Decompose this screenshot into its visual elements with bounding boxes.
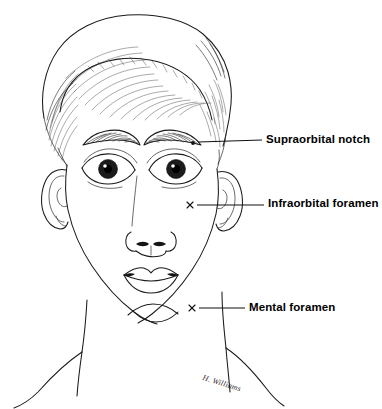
sternocleidomastoid-left bbox=[77, 352, 82, 396]
shoulder-right bbox=[226, 348, 284, 406]
hair-hatching-crown bbox=[66, 47, 211, 120]
supraorbital-marker-dot bbox=[191, 141, 195, 145]
eyebrow-left-group bbox=[83, 130, 140, 145]
eye-right-highlight bbox=[171, 164, 175, 168]
eye-left-highlight bbox=[103, 164, 107, 168]
face-outline-right bbox=[138, 169, 218, 323]
ear-left-lobe bbox=[56, 216, 66, 226]
mental-marker-x bbox=[189, 305, 195, 311]
neck-right bbox=[222, 292, 226, 348]
neck-shoulders-group bbox=[14, 292, 284, 408]
eye-right-group bbox=[147, 149, 202, 189]
ear-right-group bbox=[216, 171, 242, 231]
hair-outline bbox=[43, 15, 232, 146]
anatomical-figure: Supraorbital notch Infraorbital foramen … bbox=[0, 0, 382, 409]
infraorbital-marker-x bbox=[187, 202, 193, 208]
ear-right-outer bbox=[216, 171, 242, 231]
hair-hatching-left bbox=[46, 71, 78, 160]
shoulder-left bbox=[14, 352, 82, 408]
supraorbital-leader-line bbox=[198, 140, 262, 142]
eye-left-group bbox=[82, 149, 137, 189]
nose-bridge-left bbox=[132, 176, 137, 226]
mouth-line bbox=[124, 275, 178, 281]
annotation-leaders bbox=[187, 140, 264, 311]
hair-hatching-right bbox=[196, 38, 226, 147]
hairline-front bbox=[60, 58, 212, 120]
ear-left-helix bbox=[49, 176, 64, 222]
hair-group bbox=[43, 15, 232, 169]
mouth-group bbox=[124, 268, 178, 315]
nostril-right bbox=[153, 242, 166, 247]
hair-hatching-hairline bbox=[88, 57, 202, 98]
ear-left-group bbox=[42, 169, 68, 229]
label-supraorbital-notch: Supraorbital notch bbox=[266, 134, 370, 146]
neck-left bbox=[82, 300, 87, 352]
sideburn-right bbox=[217, 150, 219, 169]
label-infraorbital-foramen: Infraorbital foramen bbox=[268, 198, 379, 210]
ear-right-lobe bbox=[218, 218, 228, 228]
chin-jaw bbox=[134, 312, 178, 322]
nostril-left bbox=[136, 242, 149, 247]
nose-right-wing bbox=[166, 232, 176, 251]
nose-left-wing bbox=[126, 232, 136, 251]
label-mental-foramen: Mental foramen bbox=[249, 302, 335, 314]
ear-right-helix bbox=[220, 178, 235, 224]
ear-left-outer bbox=[42, 169, 68, 229]
